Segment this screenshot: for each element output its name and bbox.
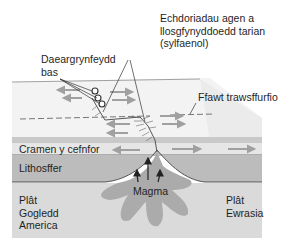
- label-north-american-plate: Plât Gogledd America: [19, 194, 59, 232]
- label-eurasian-plate: Plât Ewrasia: [226, 194, 263, 219]
- mid-ocean-ridge-diagram: Echdoriadau agen a llosgfynyddoedd taria…: [0, 0, 289, 248]
- label-fissure-eruptions: Echdoriadau agen a llosgfynyddoedd taria…: [160, 12, 265, 50]
- label-oceanic-crust: Cramen y cefnfor: [19, 143, 100, 156]
- label-lithosphere: Lithosffer: [19, 162, 62, 175]
- label-magma: Magma: [133, 185, 168, 198]
- surface-right-slope: [200, 79, 262, 142]
- label-shallow-earthquakes: Daeargrynfeydd bas: [41, 53, 116, 78]
- label-transform-fault: Ffawt trawsffurfio: [198, 91, 278, 104]
